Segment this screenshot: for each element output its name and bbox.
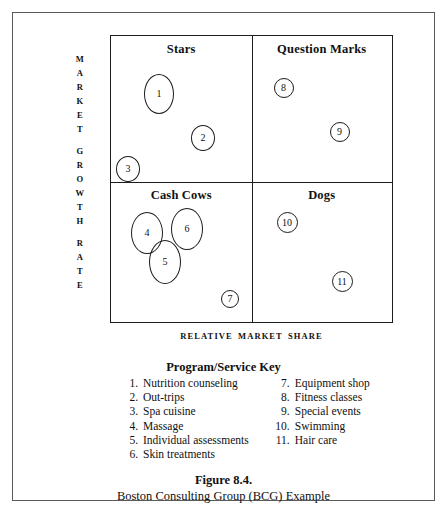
key-item-label: Equipment shop (295, 376, 370, 390)
key-item: 5.Individual assessments (121, 433, 249, 447)
key-item: 3.Spa cuisine (121, 404, 249, 418)
quadrant-question-marks: Question Marks 89 (252, 36, 393, 182)
bubble-label: 3 (126, 164, 131, 174)
bubble-label: 11 (337, 277, 347, 287)
key-item-label: Out-trips (143, 390, 185, 404)
quadrant-cash-cows: Cash Cows 4657 (111, 182, 252, 324)
bubble-label: 9 (337, 127, 342, 137)
key-item-number: 4. (121, 419, 138, 433)
y-axis-letter: T (70, 125, 90, 139)
y-axis-letter: E (70, 281, 90, 295)
key-item: 11.Hair care (273, 433, 370, 447)
caption-title: Figure 8.4. (25, 472, 422, 488)
y-axis-letter: T (70, 267, 90, 281)
key-title: Program/Service Key (25, 360, 422, 375)
key-item-label: Spa cuisine (143, 404, 196, 418)
y-axis-letter: A (70, 253, 90, 267)
quadrant-label-question-marks: Question Marks (252, 42, 393, 57)
y-axis-letter: H (70, 217, 90, 231)
quadrant-stars: Stars 123 (111, 36, 252, 182)
key-item-number: 8. (273, 390, 290, 404)
bubble-7: 7 (221, 290, 239, 308)
bubble-9: 9 (330, 122, 350, 142)
bubble-6: 6 (171, 208, 203, 250)
figure-caption: Figure 8.4. Boston Consulting Group (BCG… (25, 472, 422, 504)
y-axis-letter: M (70, 55, 90, 69)
y-axis-letter: O (70, 175, 90, 189)
bcg-matrix: Stars 123 Question Marks 89 Cash Cows 46… (110, 35, 393, 323)
key-item-label: Swimming (295, 419, 345, 433)
key-item-number: 3. (121, 404, 138, 418)
key-item-number: 7. (273, 376, 290, 390)
key-item-label: Special events (295, 404, 361, 418)
bubble-label: 5 (163, 257, 168, 267)
x-axis-label: RELATIVE MARKET SHARE (110, 331, 393, 341)
key-item-label: Skin treatments (143, 447, 215, 461)
bubble-1: 1 (144, 74, 174, 114)
caption-subtitle: Boston Consulting Group (BCG) Example (25, 488, 422, 504)
quadrant-label-stars: Stars (111, 42, 252, 57)
key-item: 10.Swimming (273, 419, 370, 433)
bubble-3: 3 (116, 156, 140, 182)
key-item: 6.Skin treatments (121, 447, 249, 461)
quadrant-label-cash-cows: Cash Cows (111, 188, 252, 203)
key-item: 2.Out-trips (121, 390, 249, 404)
bubble-label: 4 (145, 228, 150, 238)
key-item: 1.Nutrition counseling (121, 376, 249, 390)
figure-page: MARKETGROWTHRATE Stars 123 Question Mark… (0, 0, 447, 515)
y-axis-letter: A (70, 69, 90, 83)
key-item-number: 6. (121, 447, 138, 461)
bubble-label: 6 (185, 224, 190, 234)
key-column-right: 7.Equipment shop8.Fitness classes9.Speci… (273, 376, 370, 461)
y-axis-letter: R (70, 239, 90, 253)
y-axis-letter: R (70, 83, 90, 97)
bubble-label: 2 (201, 133, 206, 143)
bubble-2: 2 (191, 125, 215, 151)
key-item: 9.Special events (273, 404, 370, 418)
y-axis-label: MARKETGROWTHRATE (70, 55, 90, 295)
y-axis-letter: G (70, 147, 90, 161)
bubble-label: 8 (281, 83, 286, 93)
y-axis-letter: W (70, 189, 90, 203)
bubble-11: 11 (332, 271, 353, 292)
key-item-label: Nutrition counseling (143, 376, 238, 390)
bubble-5: 5 (149, 240, 181, 284)
key-item-label: Hair care (295, 433, 337, 447)
quadrant-dogs: Dogs 1011 (252, 182, 393, 324)
bubble-label: 1 (157, 89, 162, 99)
bubble-8: 8 (274, 78, 294, 98)
y-axis-letter: E (70, 111, 90, 125)
key-item-number: 9. (273, 404, 290, 418)
key-item: 8.Fitness classes (273, 390, 370, 404)
quadrant-label-dogs: Dogs (252, 188, 393, 203)
bubble-10: 10 (277, 212, 298, 233)
y-axis-letter: K (70, 97, 90, 111)
y-axis-letter: T (70, 203, 90, 217)
key-item-number: 1. (121, 376, 138, 390)
key-item-number: 10. (273, 419, 290, 433)
key-item-label: Individual assessments (143, 433, 249, 447)
program-service-key: 1.Nutrition counseling2.Out-trips3.Spa c… (121, 376, 421, 461)
y-axis-letter: R (70, 161, 90, 175)
key-item-label: Fitness classes (295, 390, 362, 404)
key-item-number: 11. (273, 433, 290, 447)
key-item-label: Massage (143, 419, 183, 433)
key-item-number: 5. (121, 433, 138, 447)
key-item: 4.Massage (121, 419, 249, 433)
key-item: 7.Equipment shop (273, 376, 370, 390)
key-item-number: 2. (121, 390, 138, 404)
bubble-label: 7 (228, 294, 233, 304)
key-column-left: 1.Nutrition counseling2.Out-trips3.Spa c… (121, 376, 249, 461)
bubble-label: 10 (282, 218, 292, 228)
page-border: MARKETGROWTHRATE Stars 123 Question Mark… (12, 12, 435, 501)
